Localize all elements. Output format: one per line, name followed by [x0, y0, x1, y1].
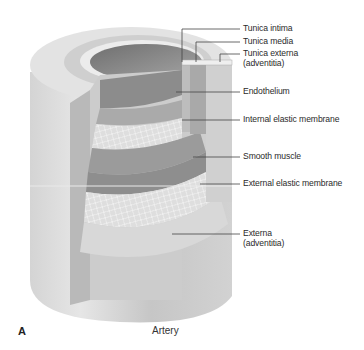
label-tunica-intima: Tunica intima [243, 24, 293, 34]
label-smooth-muscle: Smooth muscle [243, 152, 301, 162]
label-external-elastic-membrane: External elastic membrane [243, 179, 342, 189]
label-endothelium: Endothelium [243, 87, 290, 97]
label-tunica-media: Tunica media [243, 37, 293, 47]
artery-illustration [0, 0, 364, 350]
panel-letter: A [18, 325, 26, 337]
label-internal-elastic-membrane: Internal elastic membrane [243, 115, 339, 125]
label-externa-sub: (adventitia) [243, 239, 284, 249]
label-tunica-externa-sub: (adventitia) [243, 59, 284, 69]
figure-caption: Artery [152, 325, 179, 336]
artery-diagram: Tunica intima Tunica media Tunica extern… [0, 0, 364, 350]
